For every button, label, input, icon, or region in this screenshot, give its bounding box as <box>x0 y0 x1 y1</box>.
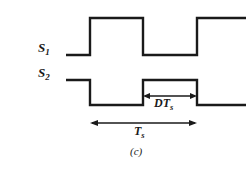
dimension-label-dts: DTs <box>154 97 173 109</box>
figure-caption: (c) <box>130 146 142 157</box>
waveform-diagram-svg <box>0 0 252 169</box>
ts-arrowhead-right <box>189 120 197 126</box>
signal-label-s1: S1 <box>38 41 50 54</box>
dimension-label-ts: Ts <box>134 125 145 137</box>
waveform-figure: S1 S2 DTs Ts (c) <box>0 0 252 169</box>
signal-label-s1-subscript: 1 <box>45 47 50 57</box>
signal-label-s2: S2 <box>38 66 50 79</box>
dimension-label-dts-subscript: s <box>170 102 173 112</box>
signal-label-s2-subscript: 2 <box>45 72 50 82</box>
s1-waveform-trace <box>66 18 246 55</box>
dimension-label-dts-base: DT <box>154 96 170 110</box>
dimension-label-ts-subscript: s <box>141 130 144 140</box>
ts-arrowhead-left <box>90 120 98 126</box>
